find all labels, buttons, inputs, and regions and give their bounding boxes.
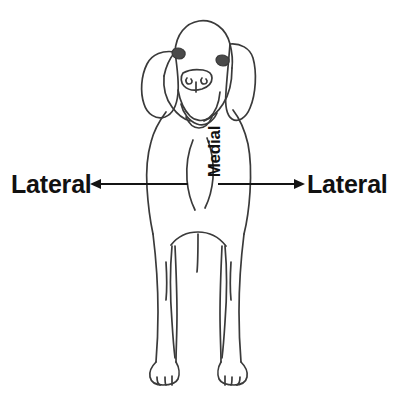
hind-inner-line — [197, 234, 198, 272]
nose-right-nostril — [201, 78, 207, 84]
right-front-leg-crease — [230, 262, 231, 300]
right-front-leg-inner — [220, 246, 222, 362]
left-paw-toe-2 — [165, 377, 166, 385]
left-front-leg-crease — [166, 262, 167, 300]
left-eye — [172, 48, 185, 59]
right-paw-toe-2 — [231, 377, 232, 385]
anatomical-direction-diagram: Lateral Lateral Medial — [0, 0, 395, 394]
label-medial: Medial — [206, 123, 223, 181]
hind-right-leg — [222, 246, 227, 358]
left-body-outline — [147, 112, 166, 234]
right-front-leg-outer — [239, 234, 244, 362]
nose-left-nostril — [186, 78, 192, 84]
left-front-leg-inner — [175, 246, 177, 362]
label-lateral-left: Lateral — [11, 170, 92, 199]
right-eye — [216, 55, 229, 66]
right-body-outline — [233, 110, 251, 234]
hind-left-leg — [171, 246, 176, 358]
label-lateral-right: Lateral — [307, 170, 388, 199]
chest-left-curve — [187, 140, 195, 210]
left-front-leg-outer — [153, 234, 158, 362]
